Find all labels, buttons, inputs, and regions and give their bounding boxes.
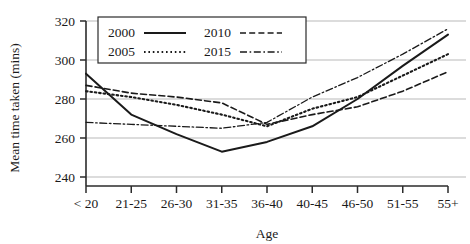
x-tick-labels-group: < 2021-2526-3031-3536-4040-4546-5051-555… <box>74 196 459 211</box>
y-axis-title: Mean time taken (mins) <box>7 43 22 172</box>
legend-label-2005: 2005 <box>108 44 135 59</box>
y-tick-label: 320 <box>55 14 76 29</box>
y-tick-label: 240 <box>55 170 76 185</box>
x-tick-label: 36-40 <box>251 196 283 211</box>
chart-container: 320300280260240 < 2021-2526-3031-3536-40… <box>0 0 470 244</box>
x-tick-label: 51-55 <box>387 196 419 211</box>
x-axis-title: Age <box>256 226 279 241</box>
y-tick-labels-group: 320300280260240 <box>55 14 76 185</box>
x-tick-label: 40-45 <box>297 196 329 211</box>
x-tick-label: 55+ <box>437 196 458 211</box>
x-tick-label: 31-35 <box>206 196 238 211</box>
legend-label-2000: 2000 <box>108 25 135 40</box>
y-tick-label: 300 <box>55 53 76 68</box>
y-tick-label: 260 <box>55 131 76 146</box>
x-tick-label: 26-30 <box>161 196 193 211</box>
line-chart: 320300280260240 < 2021-2526-3031-3536-40… <box>0 0 470 244</box>
legend-label-2010: 2010 <box>204 25 231 40</box>
legend-label-2015: 2015 <box>204 44 231 59</box>
series-line-2005 <box>86 54 448 126</box>
x-tick-label: < 20 <box>74 196 99 211</box>
legend: 2000201020052015 <box>98 17 306 63</box>
x-tick-label: 46-50 <box>342 196 374 211</box>
x-tick-label: 21-25 <box>116 196 148 211</box>
y-tick-label: 280 <box>55 92 76 107</box>
